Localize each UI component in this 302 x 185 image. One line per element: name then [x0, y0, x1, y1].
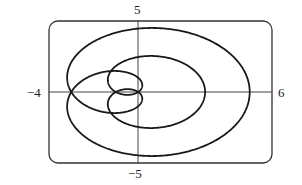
y-max-label: 5	[134, 3, 141, 16]
y-min-label: −5	[128, 167, 142, 180]
x-min-label: −4	[27, 86, 41, 99]
x-max-label: 6	[278, 86, 285, 99]
polar-plot	[0, 0, 302, 185]
